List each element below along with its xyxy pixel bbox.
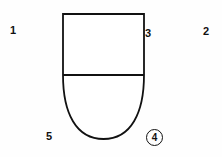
reference-label-4-circled: 4	[146, 129, 163, 146]
vessel-outline-path	[63, 14, 144, 139]
reference-label-3: 3	[145, 28, 151, 39]
diagram-svg	[0, 0, 222, 157]
reference-label-5: 5	[46, 131, 52, 142]
figure-canvas: 1 2 3 5 4	[0, 0, 222, 157]
reference-label-1: 1	[10, 25, 16, 36]
reference-label-2: 2	[203, 26, 209, 37]
